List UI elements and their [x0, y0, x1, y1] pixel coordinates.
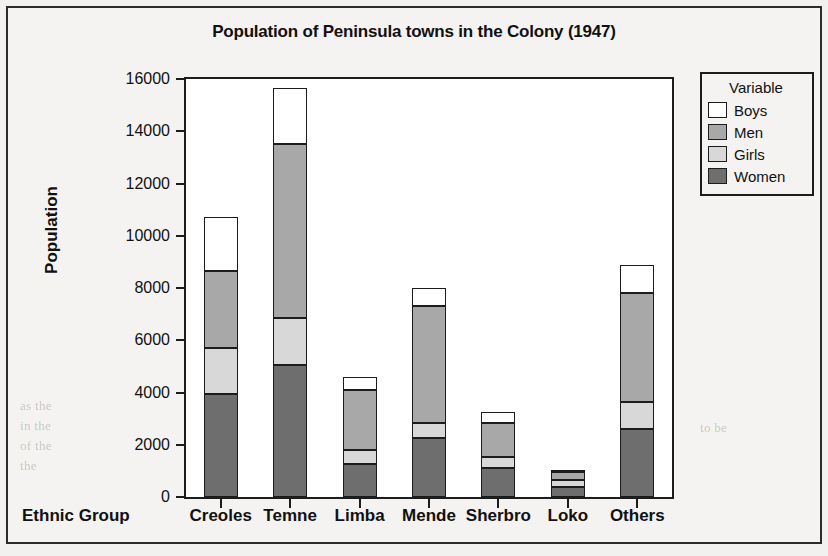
stacked-bar[interactable] — [343, 79, 377, 497]
bar-segment-girls[interactable] — [620, 402, 654, 429]
bar-segment-women[interactable] — [620, 429, 654, 497]
stacked-bar[interactable] — [551, 79, 585, 497]
bar-segment-girls[interactable] — [412, 423, 446, 439]
x-tick-label-creoles: Creoles — [190, 506, 252, 526]
bar-segment-women[interactable] — [551, 487, 585, 497]
y-tick-mark — [176, 78, 184, 80]
bar-segment-boys[interactable] — [481, 412, 515, 422]
bar-segment-men[interactable] — [343, 390, 377, 450]
x-tick-label-mende: Mende — [402, 506, 456, 526]
stacked-bar[interactable] — [620, 79, 654, 497]
y-tick-mark — [176, 339, 184, 341]
bar-segment-men[interactable] — [412, 306, 446, 422]
y-tick-value: 6000 — [90, 331, 170, 349]
x-tick-label-loko: Loko — [548, 506, 589, 526]
legend-swatch-men — [708, 124, 727, 140]
y-tick-value: 14000 — [90, 122, 170, 140]
y-tick-mark — [176, 287, 184, 289]
legend-label: Women — [734, 168, 785, 185]
y-tick-value: 16000 — [90, 70, 170, 88]
y-tick-mark — [176, 444, 184, 446]
x-tick-label-sherbro: Sherbro — [466, 506, 531, 526]
x-axis-label: Ethnic Group — [22, 506, 130, 526]
bar-segment-boys[interactable] — [273, 88, 307, 144]
y-tick-value: 4000 — [90, 384, 170, 402]
legend-item-girls[interactable]: Girls — [708, 143, 806, 165]
y-tick-value: 0 — [90, 488, 170, 506]
bar-segment-women[interactable] — [273, 365, 307, 497]
bar-segment-girls[interactable] — [273, 318, 307, 365]
legend: Variable BoysMenGirlsWomen — [700, 72, 814, 196]
ghost-text: to be — [700, 420, 727, 436]
legend-item-women[interactable]: Women — [708, 165, 806, 187]
legend-label: Girls — [734, 146, 765, 163]
bar-segment-women[interactable] — [204, 394, 238, 497]
stacked-bar[interactable] — [481, 79, 515, 497]
bar-segment-women[interactable] — [412, 438, 446, 497]
bar-segment-boys[interactable] — [551, 470, 585, 473]
bar-segment-boys[interactable] — [343, 377, 377, 390]
x-tick-label-others: Others — [610, 506, 665, 526]
y-tick-mark — [176, 130, 184, 132]
bar-segment-boys[interactable] — [620, 265, 654, 294]
stacked-bar[interactable] — [412, 79, 446, 497]
stacked-bar[interactable] — [204, 79, 238, 497]
y-tick-mark — [176, 392, 184, 394]
bar-segment-boys[interactable] — [204, 217, 238, 271]
plot-area — [184, 77, 674, 499]
legend-title: Variable — [708, 79, 806, 96]
legend-item-boys[interactable]: Boys — [708, 99, 806, 121]
bar-segment-girls[interactable] — [551, 480, 585, 487]
y-axis-ticks: 0200040006000800010000120001400016000 — [0, 0, 184, 556]
bar-segment-women[interactable] — [343, 464, 377, 497]
y-tick-value: 2000 — [90, 436, 170, 454]
bar-segment-men[interactable] — [273, 144, 307, 318]
bar-segment-women[interactable] — [481, 468, 515, 497]
stacked-bar[interactable] — [273, 79, 307, 497]
y-tick-mark — [176, 496, 184, 498]
bar-segment-men[interactable] — [551, 472, 585, 480]
legend-label: Boys — [734, 102, 767, 119]
bar-segment-girls[interactable] — [343, 450, 377, 464]
y-tick-value: 10000 — [90, 227, 170, 245]
x-tick-label-limba: Limba — [335, 506, 385, 526]
scanned-page: to beas thein theof thethe Population of… — [0, 0, 828, 556]
legend-swatch-girls — [708, 146, 727, 162]
legend-entries: BoysMenGirlsWomen — [708, 99, 806, 187]
bar-segment-men[interactable] — [204, 271, 238, 348]
y-tick-value: 12000 — [90, 175, 170, 193]
x-tick-label-temne: Temne — [263, 506, 317, 526]
legend-swatch-boys — [708, 102, 727, 118]
bar-segment-boys[interactable] — [412, 288, 446, 306]
legend-swatch-women — [708, 168, 727, 184]
y-tick-mark — [176, 183, 184, 185]
legend-label: Men — [734, 124, 763, 141]
legend-item-men[interactable]: Men — [708, 121, 806, 143]
bar-segment-men[interactable] — [481, 423, 515, 457]
bar-segment-men[interactable] — [620, 293, 654, 401]
y-tick-mark — [176, 235, 184, 237]
bar-segment-girls[interactable] — [204, 348, 238, 394]
bar-segment-girls[interactable] — [481, 457, 515, 469]
y-tick-value: 8000 — [90, 279, 170, 297]
